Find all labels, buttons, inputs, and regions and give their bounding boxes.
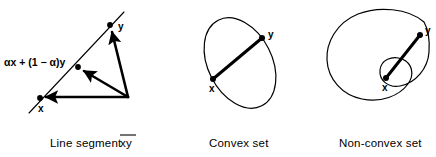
caption-convex-set: Convex set	[209, 137, 269, 149]
caption-non-convex-set: Non-convex set	[339, 137, 422, 149]
point-y-label: y	[118, 21, 124, 32]
vector-to-y	[112, 32, 128, 97]
point-x-label: x	[382, 82, 388, 93]
point-x-label: x	[38, 103, 44, 114]
point-y-dot	[417, 32, 423, 38]
caption-line-segment: Line segment	[50, 137, 125, 149]
point-combination-dot	[75, 64, 81, 70]
point-x-dot	[210, 76, 216, 82]
convex-region-outline	[190, 6, 291, 121]
figure-canvas: x y αx + (1 − α)y Line segment xy x y Co…	[0, 0, 436, 157]
figure-svg: x y αx + (1 − α)y Line segment xy x y Co…	[0, 0, 436, 157]
segment-xy	[213, 38, 262, 79]
point-x-dot	[383, 75, 389, 81]
panel-non-convex-set: x y Non-convex set	[327, 9, 431, 149]
point-x-dot	[37, 95, 43, 101]
point-y-dot	[107, 22, 113, 28]
panel-line-segment: x y αx + (1 − α)y Line segment xy	[4, 12, 136, 149]
point-y-dot	[259, 35, 265, 41]
caption-line-segment-xy: xy	[120, 137, 132, 149]
convex-combination-formula: αx + (1 − α)y	[4, 56, 66, 68]
segment-xy	[386, 35, 420, 78]
non-convex-region-outline	[327, 9, 429, 100]
point-x-label: x	[209, 83, 215, 94]
panel-convex-set: x y Convex set	[190, 6, 291, 149]
point-y-label: y	[425, 25, 431, 36]
point-y-label: y	[268, 29, 274, 40]
